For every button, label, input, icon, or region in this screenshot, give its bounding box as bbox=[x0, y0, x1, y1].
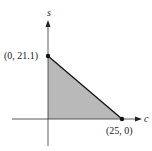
y-axis-arrow-icon bbox=[46, 20, 51, 27]
vertex-point-top bbox=[46, 54, 50, 58]
x-axis-label: c bbox=[144, 114, 148, 124]
vertex-label-top: (0, 21.1) bbox=[4, 51, 38, 61]
vertex-label-right: (25, 0) bbox=[106, 126, 133, 136]
x-axis-arrow-icon bbox=[135, 117, 142, 122]
y-axis-label: s bbox=[47, 8, 51, 18]
vertex-point-right bbox=[120, 117, 124, 121]
